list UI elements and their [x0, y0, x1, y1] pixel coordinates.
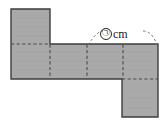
dimension-label: ㉠ cm	[100, 26, 146, 41]
geometry-net-figure: ㉠ cm	[0, 0, 167, 128]
circled-symbol-icon: ㉠	[100, 28, 112, 40]
face-middle-row	[11, 44, 158, 79]
net-diagram-svg	[0, 0, 167, 128]
face-top-flap	[11, 9, 50, 44]
dimension-unit: cm	[113, 28, 127, 40]
